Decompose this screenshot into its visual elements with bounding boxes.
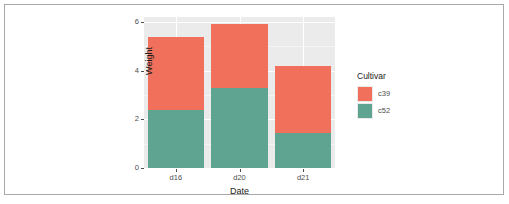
bar-segment-c39[interactable]	[211, 24, 268, 87]
legend-entries: c39c52	[357, 85, 390, 119]
x-tick-label: d16	[156, 173, 196, 182]
legend-entry[interactable]: c52	[357, 102, 390, 119]
x-tick-mark	[176, 169, 177, 172]
x-axis-title: Date	[144, 186, 335, 196]
bar-stack[interactable]	[211, 17, 268, 168]
legend-swatch-c39	[358, 87, 372, 101]
x-tick-label: d20	[220, 173, 260, 182]
y-tick-label: 0	[135, 164, 139, 172]
legend-label: c52	[378, 106, 390, 115]
bar-segment-c52[interactable]	[148, 110, 205, 168]
y-tick-label: 4	[135, 67, 139, 75]
x-tick-mark	[240, 169, 241, 172]
bar-stack[interactable]	[275, 17, 332, 168]
bar-stack[interactable]	[148, 17, 205, 168]
bar-segment-c52[interactable]	[275, 133, 332, 168]
y-tick-mark	[141, 119, 144, 120]
legend-key-background	[357, 86, 373, 102]
y-tick-label: 6	[135, 18, 139, 26]
legend: Cultivar c39c52	[357, 71, 390, 119]
legend-swatch-c52	[358, 104, 372, 118]
plot-panel	[144, 17, 335, 168]
legend-key-background	[357, 103, 373, 119]
x-tick-label: d21	[283, 173, 323, 182]
y-tick-label: 2	[135, 115, 139, 123]
y-tick-mark	[141, 22, 144, 23]
screenshot-root: 0246 Weight d16d20d21 Date Cultivar c39c…	[0, 0, 509, 204]
bar-segment-c39[interactable]	[148, 37, 205, 110]
y-axis-title: Weight	[144, 25, 154, 97]
y-tick-mark	[141, 168, 144, 169]
legend-label: c39	[378, 89, 390, 98]
bar-segment-c39[interactable]	[275, 66, 332, 133]
x-tick-mark	[303, 169, 304, 172]
legend-title: Cultivar	[357, 71, 390, 81]
bar-segment-c52[interactable]	[211, 88, 268, 168]
legend-entry[interactable]: c39	[357, 85, 390, 102]
